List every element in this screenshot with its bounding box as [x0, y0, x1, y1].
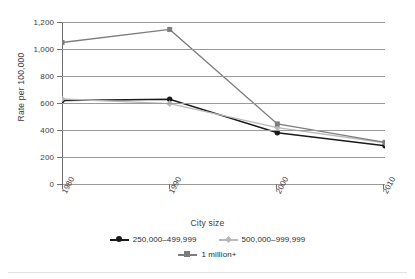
- bottom-divider: [8, 272, 407, 273]
- y-tick-label: 1,000: [6, 45, 54, 54]
- gridline: [62, 103, 385, 104]
- plot-area: [62, 22, 385, 184]
- legend-row: 1 million+: [0, 247, 415, 262]
- legend-marker-diamond-icon: [219, 235, 238, 244]
- y-tick-label: 200: [6, 153, 54, 162]
- y-tick-label: 0: [6, 180, 54, 189]
- y-tick-label: 1,200: [6, 18, 54, 27]
- series-line: [62, 99, 385, 146]
- series-3: [62, 27, 385, 145]
- legend-row: 250,000–499,999 500,000–999,999: [0, 232, 415, 247]
- y-tick-label: 600: [6, 99, 54, 108]
- chart-figure: 1,200 1,000 800 600 400 200 0 Rate per 1…: [0, 0, 415, 279]
- gridline: [62, 49, 385, 50]
- data-point: [275, 121, 280, 126]
- data-point: [167, 27, 172, 32]
- gridline: [62, 22, 385, 23]
- chart-legend: 250,000–499,999 500,000–999,999 1 millio…: [0, 232, 415, 262]
- series-line: [62, 29, 385, 142]
- legend-marker-circle-icon: [110, 235, 129, 244]
- x-axis-title: City size: [0, 218, 415, 228]
- legend-entry-250000-499999[interactable]: 250,000–499,999: [110, 235, 197, 244]
- series-1: [62, 97, 385, 149]
- data-point: [383, 140, 386, 145]
- gridline: [62, 130, 385, 131]
- legend-entry-1-million-plus[interactable]: 1 million+: [178, 250, 236, 259]
- legend-marker-square-icon: [178, 250, 197, 259]
- data-point: [62, 40, 65, 45]
- y-tick-label: 800: [6, 72, 54, 81]
- gridline: [62, 76, 385, 77]
- legend-entry-500000-999999[interactable]: 500,000–999,999: [219, 235, 306, 244]
- legend-label: 500,000–999,999: [242, 235, 306, 244]
- gridline: [62, 184, 385, 185]
- legend-label: 1 million+: [201, 250, 236, 259]
- y-tick-label: 400: [6, 126, 54, 135]
- gridline: [62, 157, 385, 158]
- y-axis-title: Rate per 100,000: [16, 27, 26, 147]
- series-line: [62, 99, 385, 143]
- legend-label: 250,000–499,999: [133, 235, 197, 244]
